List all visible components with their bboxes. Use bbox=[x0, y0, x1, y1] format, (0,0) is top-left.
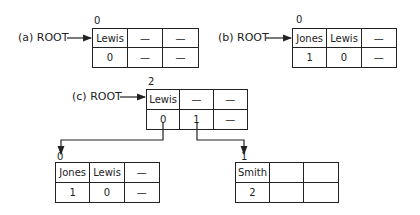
diagram-b-root-label: (b) ROOT bbox=[218, 31, 269, 44]
node-cell: Lewis bbox=[327, 29, 361, 48]
diagram-a-node: Lewis — — 0 — — bbox=[92, 28, 199, 68]
diagram-c-left-child-node: Jones Lewis — 1 0 — bbox=[55, 162, 160, 203]
diagram-c-right-child-node: Smith 2 bbox=[235, 162, 339, 203]
node-cell: Lewis bbox=[93, 29, 128, 48]
node-cell bbox=[270, 163, 304, 183]
diagram-b-index: 0 bbox=[296, 14, 302, 25]
node-cell: — bbox=[125, 183, 159, 203]
node-cell bbox=[304, 163, 338, 183]
node-cell: 0 bbox=[90, 183, 124, 203]
diagram-a-root-label: (a) ROOT bbox=[18, 31, 69, 44]
diagram-c-left-child-index: 0 bbox=[57, 151, 63, 162]
diagram-c-right-child-index: 1 bbox=[241, 151, 247, 162]
node-cell: 0 bbox=[327, 48, 361, 67]
node-cell: — bbox=[128, 29, 163, 48]
node-cell: Jones bbox=[56, 163, 90, 183]
diagram-a-index: 0 bbox=[94, 15, 100, 26]
node-cell: 0 bbox=[147, 110, 180, 130]
node-cell bbox=[304, 183, 338, 203]
node-cell: — bbox=[128, 48, 163, 67]
node-cell: 2 bbox=[236, 183, 270, 203]
node-cell: Smith bbox=[236, 163, 270, 183]
diagram-c-root-label: (c) ROOT bbox=[72, 90, 122, 103]
node-cell: Lewis bbox=[147, 90, 180, 110]
node-cell: — bbox=[180, 90, 213, 110]
node-cell: — bbox=[163, 29, 198, 48]
node-cell: — bbox=[214, 110, 247, 130]
diagram-b-node: Jones Lewis — 1 0 — bbox=[292, 28, 397, 68]
node-cell: Lewis bbox=[90, 163, 124, 183]
node-cell bbox=[270, 183, 304, 203]
diagram-c-index: 2 bbox=[148, 76, 154, 87]
node-cell: 1 bbox=[180, 110, 213, 130]
node-cell: 1 bbox=[293, 48, 327, 67]
node-cell: — bbox=[362, 48, 396, 67]
node-cell: — bbox=[214, 90, 247, 110]
node-cell: — bbox=[163, 48, 198, 67]
diagram-c-root-node: Lewis — — 0 1 — bbox=[146, 89, 248, 130]
node-cell: Jones bbox=[293, 29, 327, 48]
node-cell: — bbox=[362, 29, 396, 48]
node-cell: 0 bbox=[93, 48, 128, 67]
node-cell: 1 bbox=[56, 183, 90, 203]
node-cell: — bbox=[125, 163, 159, 183]
